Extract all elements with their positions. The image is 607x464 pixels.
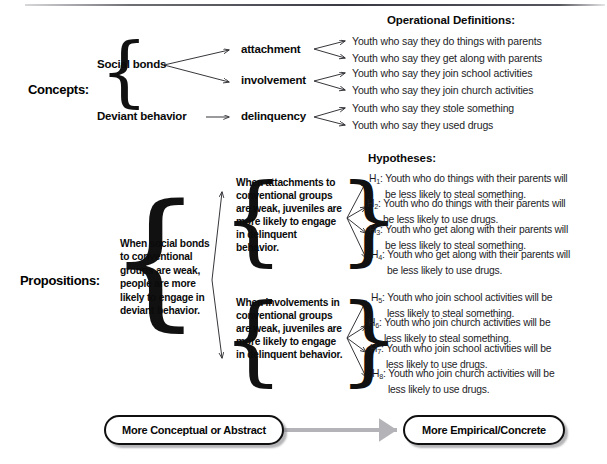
operational-definition-item: Youth who say they join church activitie… [352,84,533,96]
hypothesis-item: H3: Youth who get along with their paren… [369,224,568,252]
proposition-main: When social bonds to conventional groups… [120,237,212,317]
top-divider-rule [25,4,605,6]
concept-attachment: attachment [241,43,300,55]
header-operational-definitions: Operational Definitions: [387,14,515,26]
operational-definition-item: Youth who say they join school activitie… [352,67,532,79]
concept-involvement: involvement [241,74,306,86]
hypothesis-item: H7: Youth who join school activities wil… [370,343,551,371]
concept-delinquency: delinquency [241,110,306,122]
hypothesis-item: H6: Youth who join church activities wil… [368,317,550,345]
continuum-left-label: More Conceptual or Abstract [122,424,266,436]
proposition-sub-2: When involvements in conventional groups… [236,296,344,361]
diagram-canvas: Concepts: { Propositions: { Operational … [0,0,607,464]
hypothesis-item: H4: Youth who get along with their paren… [371,249,570,277]
operational-definition-item: Youth who say they get along with parent… [352,52,542,64]
concept-deviant-behavior: Deviant behavior [97,110,186,122]
operational-definition-item: Youth who say they used drugs [352,119,493,131]
section-label-propositions: Propositions: [20,273,100,288]
hypothesis-item: H5: Youth who join school activities wil… [371,292,552,320]
continuum-right-label: More Empirical/Concrete [422,424,546,436]
concept-social-bonds: Social bonds [97,58,166,70]
operational-definition-item: Youth who say they stole something [352,102,514,114]
hypothesis-item: H2: Youth who do things with their paren… [367,198,565,226]
proposition-sub-1: When attachments to conventional groups … [236,176,342,255]
section-label-concepts: Concepts: [28,82,89,97]
concepts-brace: { [100,33,148,109]
hypothesis-item: H8: Youth who join church activities wil… [372,368,554,396]
hypothesis-item: H1: Youth who do things with their paren… [369,173,567,201]
continuum-pill-right[interactable]: More Empirical/Concrete [403,415,565,445]
operational-definition-item: Youth who say they do things with parent… [352,35,542,47]
continuum-pill-left[interactable]: More Conceptual or Abstract [104,415,284,445]
